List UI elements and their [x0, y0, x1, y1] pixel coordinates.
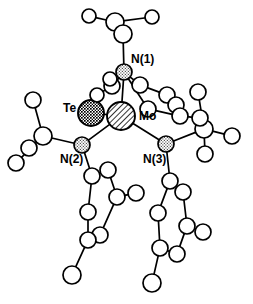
atom-l5-c [80, 232, 96, 248]
label-te: Te [63, 101, 76, 115]
atom-rh1-h [195, 224, 211, 240]
bond-c3-c4 [146, 87, 160, 92]
atom-h2b-h [103, 72, 117, 86]
bond-mo-n1 [122, 79, 124, 103]
bond-c8-h8b [212, 131, 226, 134]
bond-n2-c9 [51, 138, 76, 144]
atom-r1-c [162, 173, 178, 189]
atom-n3-n [158, 136, 174, 152]
atom-mo-mo [107, 102, 135, 130]
atom-c3-c [132, 77, 148, 93]
bond-r3-r4 [179, 232, 184, 247]
atom-te-te [78, 100, 104, 126]
bond-c1-h1b [123, 18, 147, 21]
atom-r5-c [152, 240, 168, 256]
atom-r6-c [150, 205, 166, 221]
bond-layer [21, 17, 226, 275]
atom-h9c-h [8, 155, 24, 171]
atom-h8b-h [224, 128, 240, 144]
bond-r2-r3 [184, 199, 186, 220]
bond-l3-l4 [103, 203, 114, 229]
atom-h1a-h [82, 9, 96, 23]
atom-h9a-h [25, 92, 41, 108]
bond-n1-c1a [123, 42, 124, 65]
bond-r5-rh2 [154, 255, 159, 276]
bond-r5-r6 [158, 220, 159, 241]
atom-c1a-c [114, 25, 132, 43]
atom-r3-c [179, 218, 195, 234]
atom-n2-n [74, 137, 90, 153]
bond-mo-n3 [132, 123, 160, 141]
bond-l5-lh2 [75, 246, 85, 268]
atom-c7-c [172, 108, 188, 124]
label-mo: Mo [139, 109, 156, 123]
atom-l6-c [80, 204, 96, 220]
atom-n1-n [116, 64, 132, 80]
atom-lh1-h [128, 185, 144, 201]
atom-c9-c [34, 127, 52, 145]
atom-h2a-h [90, 88, 104, 102]
atom-h1b-h [145, 10, 159, 24]
label-n1: N(1) [131, 52, 154, 66]
crystal-structure-figure: TeMoN(1)N(2)N(3) [0, 0, 253, 304]
atom-l1-c [84, 168, 100, 184]
atom-rh2-h [143, 274, 161, 292]
atom-lh2-h [63, 266, 81, 284]
atom-l3-c [109, 189, 125, 205]
structure-diagram-svg: TeMoN(1)N(2)N(3) [0, 0, 253, 304]
atom-r2-c [175, 184, 191, 200]
bond-n3-r1 [167, 151, 170, 174]
bond-r6-r1 [160, 187, 167, 206]
atom-c8a-c [192, 110, 208, 126]
atom-r4-c [169, 246, 185, 262]
bond-n2-l1 [84, 151, 90, 169]
bond-l2-l3 [110, 176, 115, 190]
label-n2: N(2) [60, 152, 83, 166]
bond-c9-h9a [35, 107, 41, 129]
atom-l2-c [100, 162, 116, 178]
label-n3: N(3) [143, 152, 166, 166]
bond-c8-n3 [172, 132, 196, 142]
atom-h8c-h [197, 146, 213, 162]
atom-h9b-h [21, 140, 37, 156]
atom-h8a-h [190, 84, 206, 100]
bond-l6-l1 [89, 183, 92, 205]
